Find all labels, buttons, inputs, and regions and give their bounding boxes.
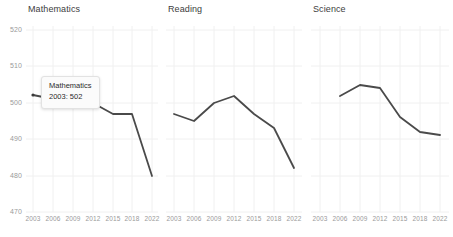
plot-area-mathematics	[0, 0, 162, 237]
x-tick-label-mathematics-2009: 2009	[66, 215, 81, 222]
x-tick-label-science-2009: 2009	[353, 215, 368, 222]
highlight-point-mathematics-2003[interactable]	[31, 93, 34, 96]
x-tick-label-science-2015: 2015	[393, 215, 408, 222]
y-tick-label-490: 490	[2, 135, 22, 142]
x-tick-label-reading-2003: 2003	[167, 215, 182, 222]
x-tick-label-reading-2012: 2012	[227, 215, 242, 222]
y-tick-label-480: 480	[2, 172, 22, 179]
x-tick-label-science-2012: 2012	[373, 215, 388, 222]
tooltip-series-label: Mathematics	[49, 81, 92, 92]
x-tick-label-reading-2022: 2022	[287, 215, 302, 222]
x-tick-label-reading-2015: 2015	[247, 215, 262, 222]
x-tick-label-science-2006: 2006	[333, 215, 348, 222]
x-tick-label-mathematics-2006: 2006	[46, 215, 61, 222]
x-tick-label-mathematics-2018: 2018	[125, 215, 140, 222]
facet-reading: Reading 2003 2006 2009	[162, 0, 307, 237]
x-tick-label-science-2022: 2022	[433, 215, 448, 222]
facet-science: Science 2003 2006 2009	[307, 0, 453, 237]
chart-tooltip: Mathematics 2003: 502	[41, 76, 100, 109]
y-tick-label-500: 500	[2, 99, 22, 106]
y-tick-label-520: 520	[2, 26, 22, 33]
plot-area-reading	[162, 0, 307, 237]
plot-area-science	[307, 0, 453, 237]
y-tick-label-470: 470	[2, 208, 22, 215]
tooltip-value-label: 2003: 502	[49, 92, 92, 103]
faceted-line-chart: Mathematics 520 510	[0, 0, 453, 237]
gridlines-horizontal-mathematics	[26, 30, 158, 212]
x-tick-label-reading-2006: 2006	[187, 215, 202, 222]
x-tick-label-mathematics-2003: 2003	[26, 215, 41, 222]
facet-mathematics: Mathematics 520 510	[0, 0, 162, 237]
x-tick-label-mathematics-2022: 2022	[145, 215, 160, 222]
x-tick-label-science-2003: 2003	[313, 215, 328, 222]
data-line-science	[340, 85, 440, 135]
x-tick-label-mathematics-2015: 2015	[106, 215, 121, 222]
x-tick-label-reading-2009: 2009	[207, 215, 222, 222]
x-tick-label-science-2018: 2018	[413, 215, 428, 222]
gridlines-vertical-reading	[174, 26, 294, 212]
gridlines-vertical-science	[320, 26, 440, 212]
x-tick-label-mathematics-2012: 2012	[86, 215, 101, 222]
x-tick-label-reading-2018: 2018	[267, 215, 282, 222]
y-tick-label-510: 510	[2, 62, 22, 69]
